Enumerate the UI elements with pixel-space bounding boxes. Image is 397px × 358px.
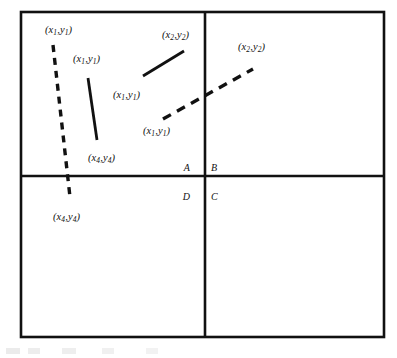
label-dashed-diagonal-start: (x1,y1) xyxy=(143,126,170,137)
quadrant-a: A xyxy=(180,163,190,173)
quadrant-d: D xyxy=(180,192,190,202)
label-dashed-diagonal-end: (x2,y2) xyxy=(238,42,265,53)
label-dashed-vertical-start: (x1,y1) xyxy=(45,25,72,36)
figure-background xyxy=(0,0,397,358)
quadrant-b: B xyxy=(211,163,217,173)
label-dashed-vertical-end: (x4,y4) xyxy=(53,212,80,223)
label-solid-diagonal-start: (x1,y1) xyxy=(113,90,140,101)
label-solid-vertical-end: (x4,y4) xyxy=(88,153,115,164)
page-edge-artifact xyxy=(6,348,186,354)
figure-canvas xyxy=(0,0,397,358)
label-solid-vertical-start: (x1,y1) xyxy=(73,54,100,65)
quadrant-c: C xyxy=(211,192,218,202)
label-solid-diagonal-end: (x2,y2) xyxy=(162,30,189,41)
